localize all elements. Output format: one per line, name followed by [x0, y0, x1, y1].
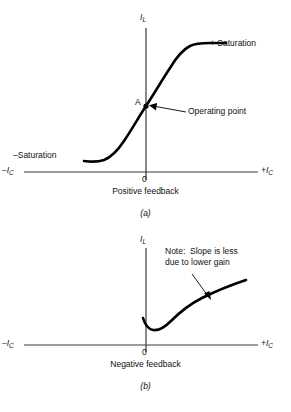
note-line-2: due to lower gain	[165, 257, 230, 268]
x-axis-positive-label-subscript: C	[268, 169, 273, 176]
operating-point-dot	[143, 103, 148, 108]
x-axis-negative-label-subscript: C	[9, 342, 14, 349]
y-axis-label: IL	[140, 234, 146, 246]
operating-point-marker-label: A	[135, 97, 141, 108]
transfer-curve	[143, 280, 246, 330]
x-axis-negative-label: –IC	[2, 165, 14, 177]
origin-label: 0	[142, 174, 147, 184]
transfer-curve	[84, 43, 226, 162]
note-line-1: Note: Slope is less	[165, 246, 238, 257]
y-axis-label-subscript: L	[142, 16, 146, 23]
figure-b-caption: Negative feedback	[0, 359, 291, 369]
figure-a-letter: (a)	[0, 208, 291, 218]
x-axis-negative-label: –IC	[2, 338, 14, 350]
x-axis-positive-label-subscript: C	[268, 342, 273, 349]
note-leader-line	[192, 274, 208, 296]
figure-b-letter: (b)	[0, 381, 291, 391]
figure-negative-feedback: IL –IC +IC 0 Note: Slope is less due to …	[0, 230, 291, 412]
y-axis-label-subscript: L	[142, 238, 146, 245]
positive-saturation-label: + Saturation	[210, 38, 256, 49]
y-axis-label: IL	[140, 12, 146, 24]
positive-feedback-plot	[0, 0, 291, 200]
operating-point-leader-line	[153, 106, 186, 112]
operating-point-arrowhead	[149, 103, 157, 111]
x-axis-positive-label: +IC	[261, 165, 273, 177]
origin-label: 0	[142, 347, 147, 357]
figure-a-caption: Positive feedback	[0, 186, 291, 196]
figure-positive-feedback: IL –IC +IC 0 + Saturation –Saturation A …	[0, 0, 291, 230]
negative-saturation-label: –Saturation	[13, 150, 56, 161]
operating-point-label: Operating point	[188, 106, 246, 117]
x-axis-positive-label: +IC	[261, 338, 273, 350]
x-axis-negative-label-subscript: C	[9, 169, 14, 176]
